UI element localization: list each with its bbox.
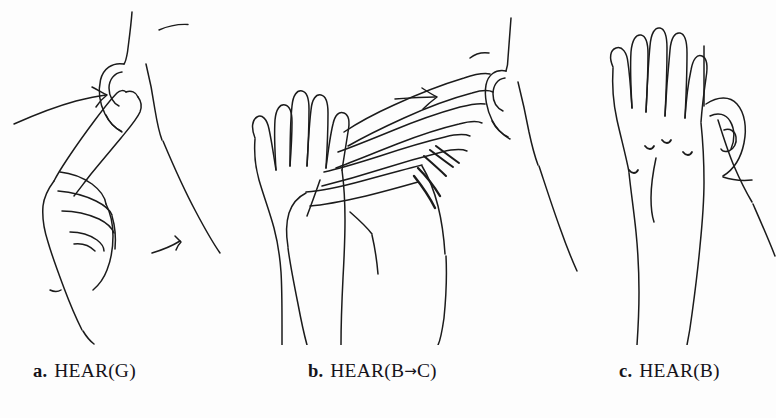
head-profile: [124, 12, 220, 253]
panel-c-drawing: [584, 0, 776, 345]
head-profile: [470, 18, 577, 271]
caption-b-gloss-prefix: HEAR(B: [330, 360, 404, 381]
caption-a-label: a.: [33, 361, 47, 381]
caption-b: b.HEAR(B→C): [308, 359, 437, 383]
rightwards-arrow-icon: →: [404, 362, 417, 380]
caption-c-label: c.: [619, 361, 632, 381]
caption-b-label: b.: [308, 361, 323, 381]
flat-open-hand: [253, 91, 349, 345]
small-motion-stroke: [152, 236, 181, 253]
illustration-panel-a: [0, 0, 232, 345]
fist: [43, 172, 116, 344]
illustration-panel-c: [584, 0, 776, 345]
index-finger: [54, 91, 141, 196]
caption-row: a.HEAR(G) b.HEAR(B→C) c.HEAR(B): [0, 345, 776, 418]
caption-c-gloss: HEAR(B): [639, 360, 719, 381]
ear: [485, 71, 510, 139]
panel-b-drawing: [232, 0, 584, 345]
caption-a-gloss: HEAR(G): [54, 360, 136, 381]
caption-b-gloss-suffix: C): [417, 360, 437, 381]
caption-c: c.HEAR(B): [619, 359, 720, 383]
panel-a-drawing: [0, 0, 232, 345]
illustration-panel-b: [232, 0, 584, 345]
head-profile: [704, 46, 775, 256]
figure-root: a.HEAR(G) b.HEAR(B→C) c.HEAR(B): [0, 0, 776, 418]
curved-motion-arrow: [14, 87, 107, 124]
ear: [706, 98, 752, 180]
flat-open-hand: [611, 28, 707, 345]
curving-hand: [287, 74, 493, 345]
caption-a: a.HEAR(G): [33, 359, 136, 383]
